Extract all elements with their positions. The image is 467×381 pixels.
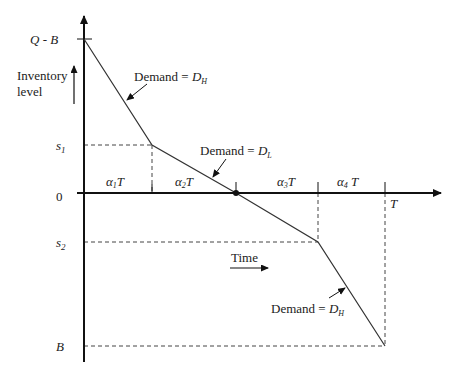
demand-label-3: Demand = DH bbox=[271, 301, 345, 318]
label-s2: s2 bbox=[56, 235, 66, 252]
label-zero: 0 bbox=[56, 189, 63, 204]
y-axis-label-line1: Inventory bbox=[17, 68, 68, 83]
label-q-minus-b: Q - B bbox=[30, 32, 58, 47]
label-b: B bbox=[56, 339, 64, 354]
demand-3-pointer-icon bbox=[329, 288, 345, 298]
segment-alpha1-label: α1T bbox=[106, 174, 125, 190]
label-T: T bbox=[390, 196, 398, 211]
segment-alpha4-label: α4 T bbox=[337, 174, 359, 190]
inventory-diagram: Q - B s1 0 s2 B Inventory level α1T α2T … bbox=[0, 0, 467, 381]
segment-alpha3-label: α3T bbox=[277, 174, 296, 190]
demand-label-2: Demand = DL bbox=[200, 143, 272, 160]
x-axis-label: Time bbox=[231, 250, 258, 265]
demand-1-pointer-icon bbox=[127, 84, 147, 100]
label-s1: s1 bbox=[56, 138, 66, 155]
y-axis-label-line2: level bbox=[17, 84, 43, 99]
segment-alpha2-label: α2T bbox=[175, 174, 194, 190]
zero-crossing-dot bbox=[233, 190, 239, 196]
demand-2-pointer-icon bbox=[213, 159, 226, 177]
demand-label-1: Demand = DH bbox=[134, 69, 208, 86]
